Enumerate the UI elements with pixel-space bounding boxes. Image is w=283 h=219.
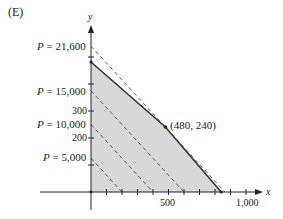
p-label-5000: P = 5,000 <box>43 152 86 163</box>
panel-label: (E) <box>8 6 23 18</box>
x-axis-label: x <box>266 187 270 197</box>
vertex-point-x <box>220 190 223 193</box>
p-label-21600: P = 21,600 <box>37 41 86 52</box>
x-tick-1000: 1,000 <box>236 198 259 208</box>
vertex-point <box>164 125 168 129</box>
y-axis-arrow-icon <box>88 25 94 33</box>
vertex-point-y <box>89 60 92 63</box>
x-axis-arrow-icon <box>255 189 263 195</box>
y-tick-200: 200 <box>72 133 87 143</box>
y-axis-label: y <box>88 12 92 22</box>
p-label-15000: P = 15,000 <box>37 86 86 97</box>
p-label-10000: P = 10,000 <box>37 119 86 130</box>
x-tick-500: 500 <box>160 198 175 208</box>
origin-point <box>90 191 93 194</box>
chart-canvas <box>0 0 283 219</box>
vertex-annotation: (480, 240) <box>170 120 216 131</box>
y-tick-300: 300 <box>72 106 87 116</box>
